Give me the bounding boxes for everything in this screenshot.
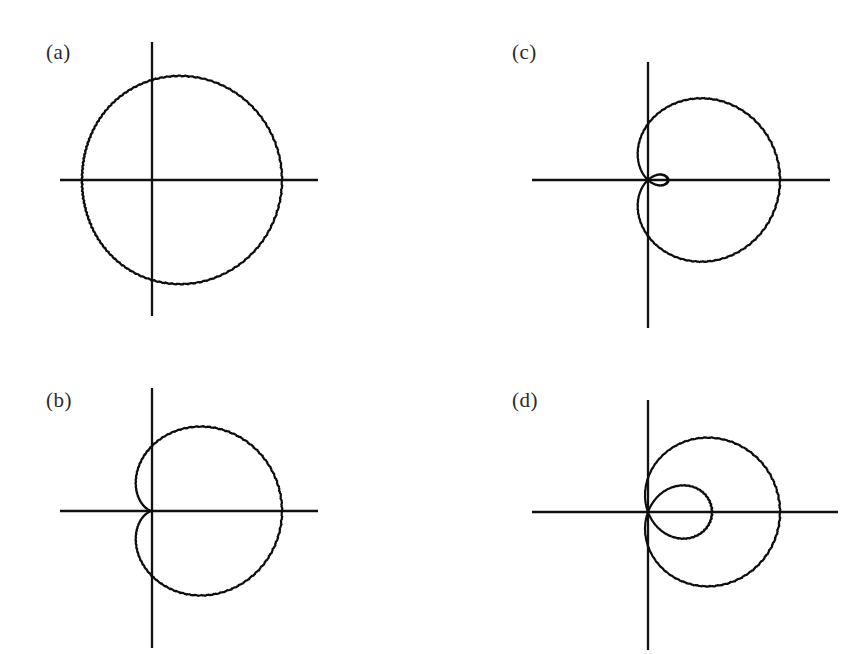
figure-canvas: (a) (b) (c) (d) xyxy=(0,0,858,654)
polar-plot-d xyxy=(0,0,858,654)
